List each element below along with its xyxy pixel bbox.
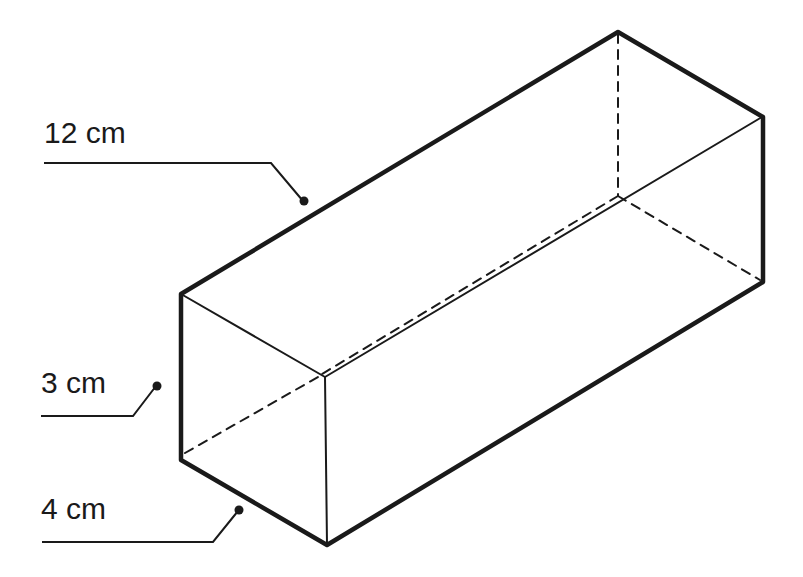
hidden-edge-front-diagonal [185, 377, 318, 453]
label-length: 12 cm [44, 118, 126, 148]
prism-diagram [0, 0, 803, 577]
label-width: 4 cm [41, 494, 106, 524]
edge-top-front-left [181, 294, 325, 377]
callout-dots [153, 197, 309, 515]
hidden-edge-back-bottom-long [322, 196, 618, 374]
callouts [41, 163, 303, 542]
hidden-edge-back-bottom-right [618, 196, 760, 280]
label-height: 3 cm [41, 368, 106, 398]
dot-12cm [300, 197, 309, 206]
leader-12cm [44, 163, 303, 201]
edge-front-vertical [325, 377, 327, 544]
visible-thin-edges [181, 117, 762, 544]
dot-3cm [153, 382, 162, 391]
edge-top-front-long [325, 117, 762, 377]
dot-4cm [235, 506, 244, 515]
prism [181, 32, 763, 545]
hidden-edges [185, 34, 760, 453]
